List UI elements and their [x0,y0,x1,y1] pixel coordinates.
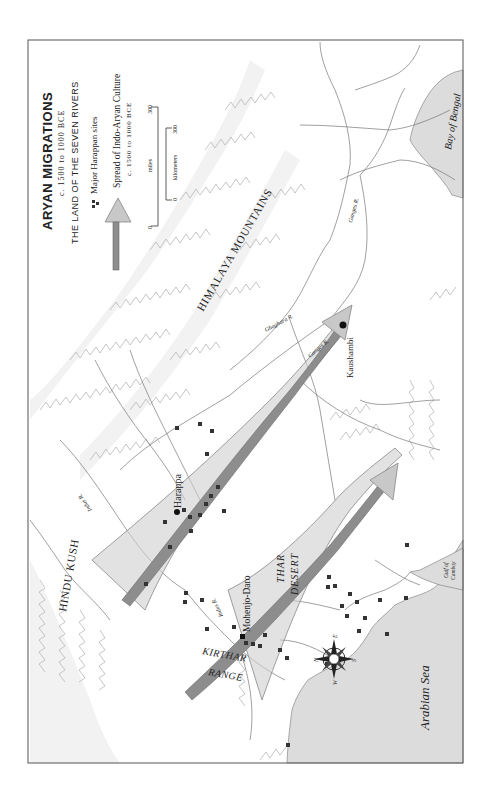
legend-subtitle: c. 1500 to 1000 BCE [57,110,66,196]
legend-sites-label: Major Harappan sites [89,116,99,194]
scale-miles-300: 300 [147,105,153,114]
label-kaushambi: Kaushambi [345,337,355,378]
label-desert: DESERT [289,552,300,596]
label-harappa: Harappa [172,474,183,508]
sites-legend-icon [92,200,99,208]
scale-miles-label: miles [147,158,153,172]
scale-miles-0: 0 [147,226,153,229]
compass-s: S [351,659,357,662]
label-thar: THAR [275,554,286,583]
label-mohenjo-daro: Mohenjo-Daro [242,575,252,632]
label-cambay: Cambay [450,561,456,580]
legend-spread-label: Spread of Indo-Aryan Culture [112,74,122,188]
label-himalaya: HIMALAYA MOUNTAINS [194,186,274,313]
label-arabian-sea: Arabian Sea [417,665,432,731]
label-ghaghara: Ghaghara R. [264,313,294,333]
label-indus-lower: Indus R. [210,597,224,619]
legend-spread-date: c. 1500 to 1000 BCE [125,102,133,176]
compass-e: E [332,634,338,639]
scale-bar [151,107,172,226]
mohenjo-daro-marker [240,634,245,639]
map: ARYAN MIGRATIONS c. 1500 to 1000 BCE THE… [0,0,485,807]
harappa-marker [174,509,180,515]
scale-km-0: 0 [172,198,178,201]
kaushambi-marker [340,322,347,329]
label-indus-upper: Indus R. [76,493,93,514]
spread-legend-icon [105,198,131,270]
legend-title: ARYAN MIGRATIONS [40,92,55,230]
legend-subtitle2: THE LAND OF THE SEVEN RIVERS [70,81,80,244]
scale-km-label: kilometers [172,154,178,180]
label-gulf-of: Gulf of [443,561,449,578]
compass-n: N [313,657,319,663]
label-ganges-upper: Ganges R. [347,198,359,224]
label-hindu-kush: HINDU KUSH [56,538,81,612]
scale-km-300: 300 [172,125,178,134]
